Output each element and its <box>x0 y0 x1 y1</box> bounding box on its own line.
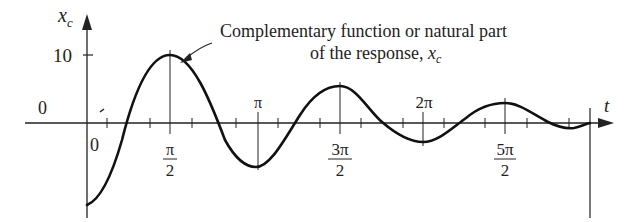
damped-response-diagram: xc 10 0 0 t π 2 π 3π 2 2π 5π 2 Complemen… <box>0 0 635 222</box>
stray-mark <box>100 109 104 112</box>
svg-text:2: 2 <box>501 161 510 180</box>
tick-label-5pi-over-2: 5π 2 <box>494 140 516 180</box>
tick-label-pi-over-2: π 2 <box>163 141 177 180</box>
x-axis-label: t <box>604 95 610 116</box>
tick-label-3pi-over-2: 3π 2 <box>328 140 352 180</box>
annotation-line-2: of the response, xc <box>310 43 442 66</box>
t-axis-arrow-icon <box>598 118 614 128</box>
xc-axis <box>82 14 93 218</box>
xc-axis-arrow-icon <box>82 14 92 30</box>
y-tick-label-10: 10 <box>53 45 72 66</box>
svg-text:3π: 3π <box>331 140 349 159</box>
svg-text:π: π <box>166 141 174 158</box>
annotation-line-1: Complementary function or natural part <box>220 21 507 41</box>
y-axis-label: xc <box>57 4 73 30</box>
annotation-pointer <box>180 43 212 63</box>
svg-text:2: 2 <box>166 161 175 180</box>
svg-text:5π: 5π <box>496 140 514 159</box>
annotation-text: Complementary function or natural part o… <box>220 21 507 66</box>
origin-left-label: 0 <box>38 98 47 118</box>
origin-label: 0 <box>90 135 99 155</box>
tick-label-2pi: 2π <box>415 93 433 112</box>
response-curve <box>87 55 590 205</box>
tick-label-pi: π <box>254 94 262 111</box>
svg-text:2: 2 <box>336 161 345 180</box>
